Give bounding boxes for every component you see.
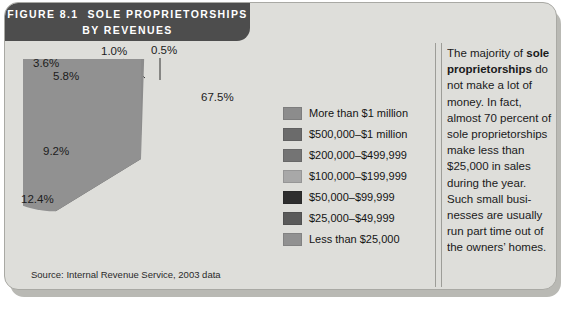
legend-item: $50,000–$99,999 bbox=[283, 187, 433, 207]
pie-slice-more-than-1m bbox=[141, 59, 144, 159]
figure-title-line2: BY REVENUES bbox=[5, 22, 250, 38]
pane-divider-left bbox=[435, 43, 436, 287]
legend-swatch-icon bbox=[283, 149, 302, 162]
pie-label-67-5: 67.5% bbox=[201, 91, 234, 103]
pie-label-0-5: 0.5% bbox=[151, 44, 177, 56]
figure-card: FIGURE 8.1SOLE PROPRIETORSHIPS BY REVENU… bbox=[4, 2, 557, 290]
figure-title-line1: SOLE PROPRIETORSHIPS bbox=[87, 8, 247, 20]
sidebar-text-part1: The majority of bbox=[447, 47, 526, 59]
legend-item: Less than $25,000 bbox=[283, 229, 433, 249]
legend-swatch-icon bbox=[283, 233, 302, 246]
figure-number: FIGURE 8.1 bbox=[7, 8, 78, 20]
pie-slice-less-than-25k bbox=[23, 59, 141, 211]
pie-chart bbox=[23, 59, 273, 259]
legend-swatch-icon bbox=[283, 107, 302, 120]
legend-item-label: Less than $25,000 bbox=[309, 233, 400, 245]
legend-item-label: $50,000–$99,999 bbox=[309, 191, 395, 203]
pie-chart-svg bbox=[23, 59, 273, 259]
pie-label-3-6: 3.6% bbox=[33, 57, 59, 69]
pie-label-5-8: 5.8% bbox=[53, 70, 79, 82]
legend-item: More than $1 million bbox=[283, 103, 433, 123]
sidebar-text-part2: do not make a lot of money. In fact, alm… bbox=[447, 63, 551, 253]
figure-container: FIGURE 8.1SOLE PROPRIETORSHIPS BY REVENU… bbox=[0, 0, 564, 315]
legend-item: $25,000–$49,999 bbox=[283, 208, 433, 228]
legend-item-label: $200,000–$499,999 bbox=[309, 149, 407, 161]
pie-label-1-0: 1.0% bbox=[101, 45, 127, 57]
pie-label-12-4: 12.4% bbox=[21, 193, 54, 205]
legend-item: $500,000–$1 million bbox=[283, 124, 433, 144]
pie-label-9-2: 9.2% bbox=[43, 145, 69, 157]
chart-pane: 67.5% 12.4% 9.2% 5.8% 3.6% 1.0% 0.5% Mor… bbox=[5, 41, 435, 290]
legend-item: $100,000–$199,999 bbox=[283, 166, 433, 186]
figure-header: FIGURE 8.1SOLE PROPRIETORSHIPS BY REVENU… bbox=[5, 3, 250, 41]
legend-item-label: $25,000–$49,999 bbox=[309, 212, 395, 224]
legend-item: $200,000–$499,999 bbox=[283, 145, 433, 165]
legend-swatch-icon bbox=[283, 212, 302, 225]
legend-item-label: $100,000–$199,999 bbox=[309, 170, 407, 182]
sidebar-callout: The majority of sole proprietor­ships do… bbox=[447, 45, 555, 287]
pane-divider-right bbox=[441, 43, 442, 287]
legend-swatch-icon bbox=[283, 128, 302, 141]
legend-swatch-icon bbox=[283, 191, 302, 204]
sidebar-paragraph: The majority of sole proprietor­ships do… bbox=[447, 45, 555, 256]
legend-swatch-icon bbox=[283, 170, 302, 183]
figure-header-line1: FIGURE 8.1SOLE PROPRIETORSHIPS bbox=[5, 6, 250, 22]
chart-legend: More than $1 million $500,000–$1 million… bbox=[283, 103, 433, 250]
source-note: Source: Internal Revenue Service, 2003 d… bbox=[31, 269, 221, 280]
legend-item-label: More than $1 million bbox=[309, 107, 408, 119]
legend-item-label: $500,000–$1 million bbox=[309, 128, 407, 140]
